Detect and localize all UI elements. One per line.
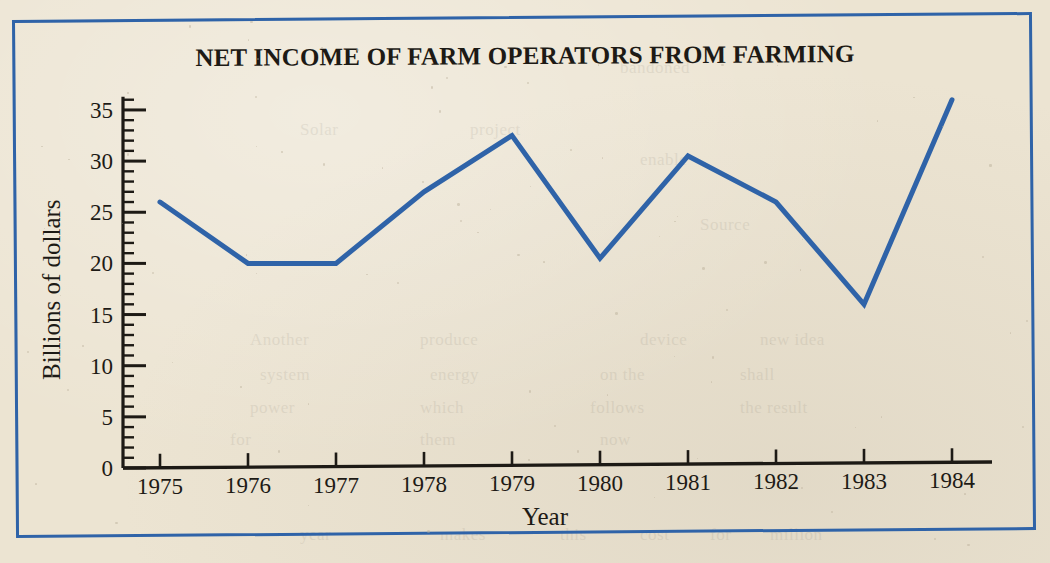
plot-area: 05101520253035 1975197619771978197919801… — [0, 0, 1050, 563]
x-axis-tick-label: 1976 — [225, 473, 271, 498]
y-axis-tick-label: 25 — [90, 200, 113, 225]
x-axis-tick-label: 1981 — [665, 470, 711, 495]
y-axis-tick-label: 0 — [102, 456, 114, 481]
x-axis-tick-label: 1983 — [841, 469, 887, 494]
y-axis-title: Billions of dollars — [38, 199, 65, 380]
x-axis-title: Year — [522, 503, 569, 530]
x-axis-tick-label: 1980 — [577, 471, 623, 496]
y-axis-tick-label: 5 — [102, 405, 114, 430]
y-axis-tick-label: 10 — [90, 354, 113, 379]
scanned-chart-page: bandonedSolarprojectenableSourceAnotherp… — [0, 0, 1050, 563]
x-axis-tick-label: 1984 — [929, 468, 976, 493]
x-axis-line — [123, 462, 992, 468]
data-series-line — [160, 100, 952, 305]
y-axis-tick-label: 30 — [90, 149, 113, 174]
y-axis: 05101520253035 — [90, 97, 146, 481]
series-polyline — [160, 100, 952, 305]
x-axis-tick-label: 1979 — [489, 471, 535, 496]
y-axis-tick-label: 35 — [90, 98, 113, 123]
x-axis: 1975197619771978197919801981198219831984 — [123, 448, 992, 498]
y-axis-tick-label: 20 — [90, 251, 113, 276]
line-chart-svg: 05101520253035 1975197619771978197919801… — [0, 0, 1050, 563]
x-axis-tick-label: 1982 — [753, 469, 799, 494]
x-axis-tick-label: 1977 — [313, 473, 359, 498]
y-axis-tick-label: 15 — [90, 303, 113, 328]
x-axis-tick-label: 1975 — [137, 474, 183, 499]
x-axis-tick-label: 1978 — [401, 472, 447, 497]
